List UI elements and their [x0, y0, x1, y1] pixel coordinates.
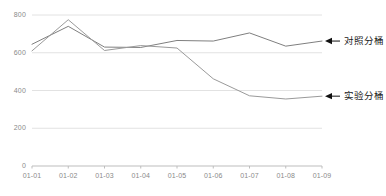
annotation-arrow-group: [325, 38, 340, 100]
y-axis-tick-label: 0: [2, 162, 26, 170]
series-annotation-2: 实验分桶: [344, 90, 384, 101]
x-axis-tick-label: 01-01: [12, 172, 52, 180]
x-axis-tick-label: 01-08: [266, 172, 306, 180]
y-axis-tick-label: 800: [2, 11, 26, 19]
y-axis-tick-label: 200: [2, 124, 26, 132]
x-axis-tick-label: 01-09: [302, 172, 342, 180]
series-annotation-1: 对照分桶: [344, 35, 384, 46]
annotation-arrow-head: [325, 93, 332, 99]
x-axis-tick-label: 01-06: [193, 172, 233, 180]
x-axis-tick-label: 01-04: [121, 172, 161, 180]
series-group: [32, 20, 322, 99]
series-line-1: [32, 26, 322, 47]
annotation-arrow-head: [325, 38, 332, 44]
x-axis-tick-label: 01-02: [48, 172, 88, 180]
gridline-group: [32, 15, 322, 128]
x-axis-tick-label: 01-05: [157, 172, 197, 180]
y-axis-tick-label: 400: [2, 87, 26, 95]
line-chart: 0200400600800 01-0101-0201-0301-0401-050…: [0, 0, 386, 196]
series-line-2: [32, 20, 322, 99]
x-axis-tick-label: 01-03: [85, 172, 125, 180]
chart-canvas: [0, 0, 386, 196]
y-axis-tick-label: 600: [2, 49, 26, 57]
x-axis-tick-label: 01-07: [230, 172, 270, 180]
